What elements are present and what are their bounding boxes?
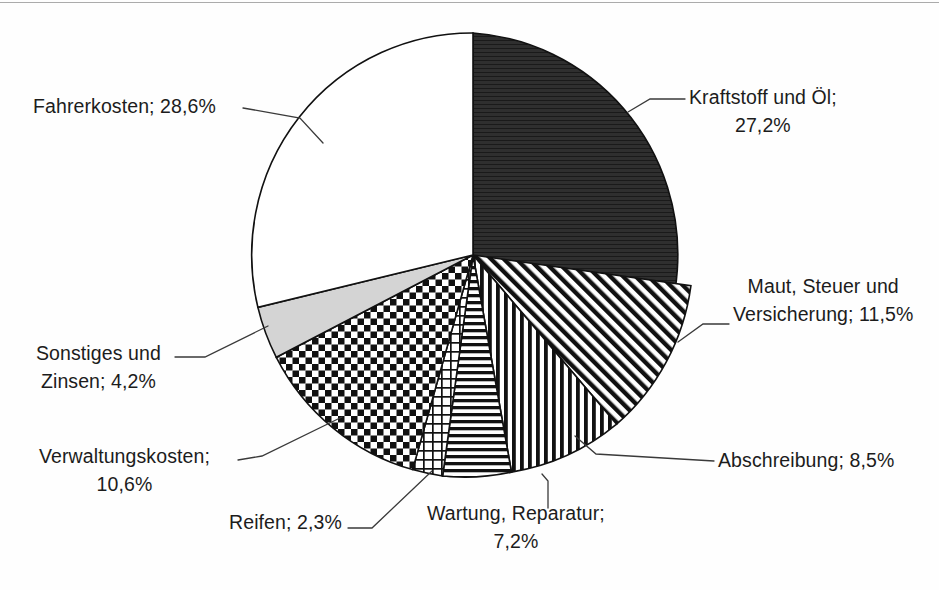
pie-label-sonstiges-line2: Zinsen; 4,2% [36, 368, 161, 396]
pie-label-kraftstoff-und-oel: Kraftstoff und Öl; 27,2% [689, 84, 837, 139]
pie-label-abschreibung: Abschreibung; 8,5% [718, 447, 894, 475]
pie-label-kraftstoff-line1: Kraftstoff und Öl; [689, 86, 837, 108]
leader-line-verwaltungskosten [238, 417, 342, 460]
pie-label-verwaltungskosten-line2: 10,6% [39, 471, 210, 499]
leader-line-kraftstoff [628, 99, 685, 112]
leader-line-sonstiges [175, 326, 268, 357]
pie-label-fahrerkosten: Fahrerkosten; 28,6% [33, 93, 216, 121]
pie-label-abschreibung-line1: Abschreibung; 8,5% [718, 449, 894, 471]
pie-label-wartung-line2: 7,2% [427, 528, 605, 556]
pie-label-verwaltungskosten: Verwaltungskosten; 10,6% [39, 443, 210, 498]
pie-label-fahrerkosten-line1: Fahrerkosten; 28,6% [33, 95, 216, 117]
pie-label-verwaltungskosten-line1: Verwaltungskosten; [39, 445, 210, 467]
pie-label-wartung-reparatur: Wartung, Reparatur; 7,2% [427, 500, 605, 555]
pie-label-sonstiges-line1: Sonstiges und [36, 342, 161, 364]
pie-label-sonstiges-und-zinsen: Sonstiges und Zinsen; 4,2% [36, 340, 161, 395]
pie-label-reifen-line1: Reifen; 2,3% [229, 511, 342, 533]
pie-label-maut-line1: Maut, Steuer und [748, 275, 899, 297]
pie-label-maut-line2: Versicherung; 11,5% [733, 301, 913, 329]
pie-label-reifen: Reifen; 2,3% [229, 509, 342, 537]
pie-label-wartung-line1: Wartung, Reparatur; [427, 502, 605, 524]
leader-line-reifen [348, 471, 432, 528]
pie-label-kraftstoff-line2: 27,2% [689, 112, 837, 140]
leader-line-maut [678, 324, 729, 342]
pie-label-maut-steuer-versicherung: Maut, Steuer und Versicherung; 11,5% [733, 273, 913, 328]
pie-chart-figure: Fahrerkosten; 28,6% Kraftstoff und Öl; 2… [0, 0, 939, 590]
